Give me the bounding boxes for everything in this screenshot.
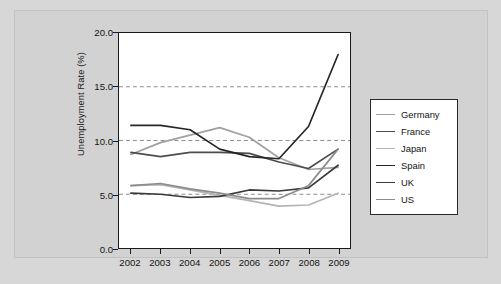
- legend-item-france[interactable]: France: [376, 123, 452, 140]
- x-tick-mark: [160, 249, 161, 254]
- legend-item-spain[interactable]: Spain: [376, 157, 452, 174]
- legend-item-germany[interactable]: Germany: [376, 106, 452, 123]
- series-line-germany: [131, 128, 338, 170]
- x-tick-mark: [249, 249, 250, 254]
- x-axis-ticks: 20022003200420052006200720082009: [118, 249, 351, 271]
- legend-label: Spain: [401, 161, 425, 170]
- legend-swatch-icon: [376, 114, 395, 115]
- y-tick-label: 0.0: [73, 244, 113, 255]
- plot-area: [119, 33, 350, 248]
- x-tick-label: 2009: [319, 257, 359, 268]
- legend-item-japan[interactable]: Japan: [376, 140, 452, 157]
- y-tick-label: 20.0: [73, 27, 113, 38]
- legend-item-us[interactable]: US: [376, 191, 452, 208]
- legend-swatch-icon: [376, 165, 395, 166]
- legend-label: Japan: [401, 144, 427, 153]
- x-tick-mark: [309, 249, 310, 254]
- x-tick-mark: [220, 249, 221, 254]
- y-tick-label: 5.0: [73, 189, 113, 200]
- legend-item-uk[interactable]: UK: [376, 174, 452, 191]
- series-line-uk: [131, 165, 338, 197]
- legend-swatch-icon: [376, 131, 395, 132]
- chart-legend: GermanyFranceJapanSpainUKUS: [370, 99, 458, 215]
- legend-label: France: [401, 127, 430, 136]
- chart-figure: Unemployment Rate (%) 0.05.010.015.020.0…: [14, 10, 488, 258]
- plot-frame: [118, 32, 351, 249]
- y-tick-label: 15.0: [73, 81, 113, 92]
- x-tick-mark: [190, 249, 191, 254]
- legend-swatch-icon: [376, 182, 395, 183]
- x-tick-mark: [130, 249, 131, 254]
- legend-label: US: [401, 195, 414, 204]
- legend-swatch-icon: [376, 148, 395, 149]
- x-tick-mark: [279, 249, 280, 254]
- legend-label: Germany: [401, 110, 440, 119]
- y-tick-label: 10.0: [73, 135, 113, 146]
- x-tick-mark: [339, 249, 340, 254]
- legend-label: UK: [401, 178, 414, 187]
- legend-swatch-icon: [376, 199, 395, 200]
- y-axis-ticks: 0.05.010.015.020.0: [69, 32, 113, 249]
